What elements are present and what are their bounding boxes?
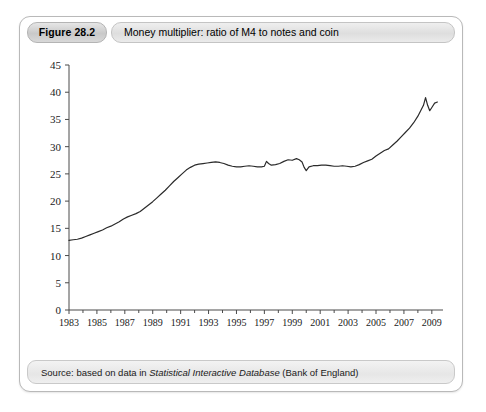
figure-card: Figure 28.2 Money multiplier: ratio of M… — [19, 16, 463, 392]
source-italic: Statistical Interactive Database — [149, 367, 279, 378]
x-axis-tick-label: 1999 — [282, 317, 302, 328]
figure-title: Money multiplier: ratio of M4 to notes a… — [124, 26, 339, 38]
y-axis-tick-label: 35 — [50, 113, 62, 125]
source-prefix: Source: based on data in — [41, 367, 149, 378]
y-axis-tick-label: 10 — [50, 250, 62, 262]
y-axis-tick-label: 30 — [50, 141, 62, 153]
line-chart: 0510152025303540451983198519871989199119… — [27, 49, 457, 354]
x-axis-tick-label: 2003 — [338, 317, 358, 328]
y-axis-tick-label: 40 — [50, 86, 62, 98]
y-axis-tick-label: 15 — [50, 222, 62, 234]
x-axis-tick-label: 2009 — [422, 317, 442, 328]
y-axis-tick-label: 20 — [50, 195, 62, 207]
x-axis-tick-label: 1987 — [115, 317, 135, 328]
chart-plot-area: 0510152025303540451983198519871989199119… — [27, 49, 457, 354]
figure-header: Figure 28.2 Money multiplier: ratio of M… — [20, 17, 462, 47]
x-axis-tick-label: 1991 — [171, 317, 191, 328]
data-series-line — [69, 98, 437, 241]
figure-source-text: Source: based on data in Statistical Int… — [41, 367, 358, 378]
x-axis-tick-label: 1993 — [199, 317, 219, 328]
x-axis-tick-label: 1995 — [226, 317, 246, 328]
x-axis-tick-label: 1983 — [59, 317, 79, 328]
x-axis-tick-label: 2001 — [310, 317, 330, 328]
x-axis-tick-label: 1989 — [143, 317, 163, 328]
x-axis-tick-label: 1997 — [254, 317, 274, 328]
y-axis-tick-label: 5 — [56, 277, 62, 289]
y-axis-tick-label: 25 — [50, 168, 62, 180]
figure-title-strip: Money multiplier: ratio of M4 to notes a… — [111, 22, 455, 43]
x-axis-tick-label: 2005 — [366, 317, 386, 328]
x-axis-tick-label: 1985 — [87, 317, 107, 328]
y-axis-tick-label: 0 — [56, 304, 62, 316]
x-axis-tick-label: 2007 — [394, 317, 414, 328]
source-suffix: (Bank of England) — [280, 367, 359, 378]
figure-source-strip: Source: based on data in Statistical Int… — [27, 360, 455, 384]
y-axis-tick-label: 45 — [50, 59, 62, 71]
figure-number-badge: Figure 28.2 — [27, 22, 107, 43]
